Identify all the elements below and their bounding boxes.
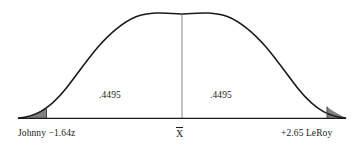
area-label-left: .4495 (99, 90, 121, 101)
xbar-letter: X (176, 128, 183, 139)
left-tail-shaded-area (19, 107, 47, 118)
overbar (176, 127, 183, 128)
axis-label-left-johnny: Johnny −1.64z (18, 128, 75, 139)
axis-label-right-leroy: +2.65 LeRoy (281, 128, 332, 139)
area-label-right: .4495 (210, 90, 232, 101)
axis-label-center-xbar: X (176, 126, 183, 140)
xbar-symbol: X (176, 126, 183, 139)
normal-curve-figure: .4495 .4495 Johnny −1.64z X +2.65 LeRoy (0, 0, 362, 149)
